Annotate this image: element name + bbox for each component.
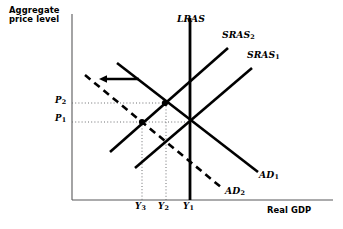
short-run-equilibrium-dot [162,100,168,106]
x-tick-label-y2: Y2 [158,202,169,212]
new-equilibrium-dot [139,119,145,125]
ad2-label-sub: 2 [240,189,244,197]
ad1-label-sub: 1 [274,173,278,181]
sras1-label-sub: 1 [275,53,279,61]
sras1-label: SRAS1 [247,50,280,61]
x-axis-title: Real GDP [267,206,311,215]
y-tick-label-p1: P1 [55,114,66,124]
ad1-label-base: AD [259,169,274,180]
x-tick-label-y3: Y3 [135,202,146,212]
ad-as-diagram: Aggregate price level Real GDP LRAS SRAS… [0,0,343,229]
y2-sub: 2 [164,204,168,212]
y-tick-label-p2: P2 [55,96,66,106]
x-tick-label-y1: Y1 [183,202,194,212]
ad1-label: AD1 [259,170,279,181]
sras2-label: SRAS2 [222,30,255,41]
y3-sub: 3 [141,204,145,212]
p2-sub: 2 [62,98,66,106]
p1-base: P [55,113,61,123]
sras1-label-base: SRAS [247,49,275,60]
sras2-label-base: SRAS [222,29,250,40]
ad2-label-base: AD [225,185,240,196]
y1-sub: 1 [189,204,193,212]
y-axis-title-line2: price level [9,15,60,24]
y-axis-title: Aggregate price level [9,6,60,24]
ad2-label: AD2 [225,186,245,197]
chart-canvas [0,0,343,229]
sras2-label-sub: 2 [250,33,254,41]
p2-base: P [55,95,61,105]
lras-label: LRAS [177,14,205,24]
p1-sub: 1 [62,116,66,124]
